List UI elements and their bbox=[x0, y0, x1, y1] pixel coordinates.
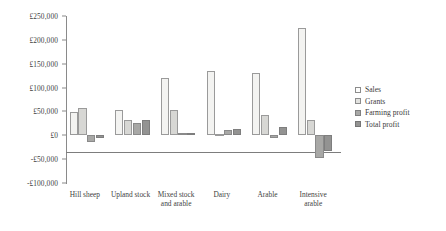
x-axis-category-label: Dairy bbox=[199, 190, 245, 199]
bar-grants[interactable] bbox=[124, 120, 132, 135]
bar-sales[interactable] bbox=[115, 110, 123, 135]
bar-sales[interactable] bbox=[70, 112, 78, 135]
legend-item-total[interactable]: Total profit bbox=[355, 119, 410, 131]
legend-swatch-icon bbox=[355, 110, 361, 116]
legend-item-grants[interactable]: Grants bbox=[355, 96, 410, 108]
bar-farming[interactable] bbox=[178, 133, 186, 135]
bar-sales[interactable] bbox=[298, 28, 306, 135]
bar-total[interactable] bbox=[324, 135, 332, 151]
legend-item-label: Farming profit bbox=[365, 108, 410, 117]
bar-sales[interactable] bbox=[161, 78, 169, 135]
bar-total[interactable] bbox=[142, 120, 150, 135]
bar-farming[interactable] bbox=[133, 123, 141, 135]
y-axis-tick-label: £150,000 bbox=[29, 59, 58, 68]
legend-item-label: Sales bbox=[365, 85, 381, 94]
legend-item-sales[interactable]: Sales bbox=[355, 84, 410, 96]
legend-swatch-icon bbox=[355, 121, 361, 127]
plot-area bbox=[66, 16, 340, 183]
y-axis-tick-label: £250,000 bbox=[29, 12, 58, 21]
y-axis-tick-label: -£50,000 bbox=[31, 155, 58, 164]
y-axis-tick-label: -£100,000 bbox=[27, 179, 58, 188]
chart-legend: SalesGrantsFarming profitTotal profit bbox=[355, 84, 410, 130]
legend-item-label: Total profit bbox=[365, 120, 399, 129]
bar-grants[interactable] bbox=[307, 120, 315, 136]
y-axis-tick-label: £0 bbox=[50, 131, 58, 140]
bar-grants[interactable] bbox=[215, 134, 223, 136]
bar-sales[interactable] bbox=[252, 73, 260, 135]
bar-grants[interactable] bbox=[261, 115, 269, 135]
bar-total[interactable] bbox=[279, 127, 287, 136]
y-axis-tick-label: £50,000 bbox=[33, 107, 58, 116]
bar-farming[interactable] bbox=[315, 135, 323, 158]
y-axis-tick-label: £100,000 bbox=[29, 83, 58, 92]
bar-total[interactable] bbox=[233, 129, 241, 135]
y-axis-tick-label: £200,000 bbox=[29, 35, 58, 44]
bar-chart: £250,000£200,000£150,000£100,000£50,000£… bbox=[0, 0, 446, 231]
x-axis-category-label: Intensive arable bbox=[290, 190, 336, 208]
x-axis-category-label: Hill sheep bbox=[62, 190, 108, 199]
legend-item-farming[interactable]: Farming profit bbox=[355, 107, 410, 119]
legend-item-label: Grants bbox=[365, 97, 385, 106]
bar-farming[interactable] bbox=[270, 135, 278, 137]
bar-farming[interactable] bbox=[224, 130, 232, 135]
x-axis-category-label: Upland stock bbox=[108, 190, 154, 199]
legend-swatch-icon bbox=[355, 98, 361, 104]
x-axis-category-label: Arable bbox=[245, 190, 291, 199]
bar-total[interactable] bbox=[187, 133, 195, 135]
bar-grants[interactable] bbox=[170, 110, 178, 135]
bar-farming[interactable] bbox=[87, 135, 95, 142]
bar-grants[interactable] bbox=[78, 108, 86, 136]
bar-sales[interactable] bbox=[207, 71, 215, 135]
x-axis-category-label: Mixed stock and arable bbox=[153, 190, 199, 208]
legend-swatch-icon bbox=[355, 87, 361, 93]
bar-total[interactable] bbox=[96, 135, 104, 137]
